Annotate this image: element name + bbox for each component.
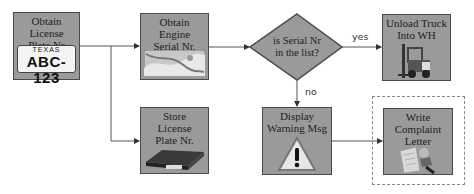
edge-label-no: no [305, 86, 317, 97]
node-label: Write Complaint Letter [384, 111, 452, 147]
node-label: Obtain Engine Serial Nr. [141, 16, 208, 52]
node-store-license-plate[interactable]: Store License Plate Nr. [140, 107, 209, 174]
node-obtain-engine-serial[interactable]: Obtain Engine Serial Nr. [140, 13, 209, 80]
warning-sign-icon [277, 136, 317, 172]
node-label: Display Warning Msg [263, 110, 331, 134]
engine-photo-icon [144, 50, 205, 76]
license-plate-icon: TEXAS ABC-123 [17, 45, 76, 73]
node-label: Unload Truck Into WH [383, 17, 450, 41]
forklift-icon [398, 42, 438, 80]
letter-writing-icon [398, 145, 438, 175]
decision-label: is Serial Nr in the list? [262, 35, 332, 59]
node-unload-truck[interactable]: Unload Truck Into WH [382, 14, 451, 81]
edge-label-yes: yes [352, 31, 368, 42]
node-write-complaint-letter[interactable]: Write Complaint Letter [383, 108, 453, 175]
binder-icon [144, 148, 206, 172]
node-label: Store License Plate Nr. [141, 110, 208, 146]
node-obtain-license-plate[interactable]: Obtain License Plate Nr TEXAS ABC-123 [13, 12, 80, 80]
node-display-warning[interactable]: Display Warning Msg [262, 107, 332, 175]
